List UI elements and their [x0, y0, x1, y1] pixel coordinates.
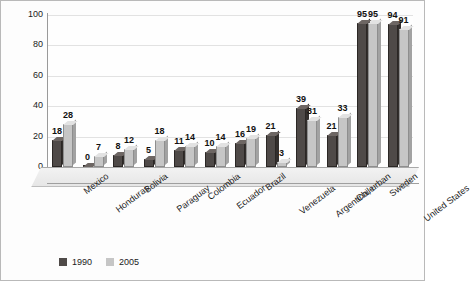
bar-face: [174, 150, 184, 167]
bar: [52, 140, 62, 167]
bar-face: [368, 23, 378, 167]
bar-group: 9595: [352, 15, 383, 167]
legend-label: 2005: [119, 257, 139, 267]
bar-value-label: 91: [393, 15, 415, 25]
bar: [357, 23, 367, 167]
x-tick-label: Mexico: [82, 171, 111, 196]
bar-value-label: 3: [271, 148, 293, 158]
bar-face: [296, 108, 306, 167]
y-tick-label: 40: [3, 100, 43, 110]
x-axis-labels: MexicoHondurasBoliviaParaguayColombiaEcu…: [47, 169, 413, 255]
bar-value-label: 28: [57, 110, 79, 120]
legend-swatch-icon: [106, 258, 114, 266]
x-tick-label: Ecuador: [235, 183, 268, 211]
bar-group: 3931: [291, 15, 322, 167]
bar: [155, 140, 165, 167]
x-tick-label: Sweden: [388, 171, 420, 199]
bar: [124, 149, 134, 167]
y-tick-label: 100: [3, 9, 43, 19]
bar-face: [94, 156, 104, 167]
bar-face: [235, 143, 245, 167]
plot-area: 1828078125181114101416192133931213395959…: [47, 15, 413, 167]
bar-face: [327, 135, 337, 167]
legend-item[interactable]: 2005: [106, 257, 139, 267]
y-tick-label: 80: [3, 39, 43, 49]
y-tick-label: 0: [3, 161, 43, 171]
bar-group: 2133: [322, 15, 353, 167]
x-tick-label: Brazil: [264, 171, 288, 193]
bar-face: [124, 149, 134, 167]
bar-series-group: 1828078125181114101416192133931213395959…: [47, 15, 413, 167]
bar-face: [113, 155, 123, 167]
bar-value-label: 21: [260, 121, 282, 131]
bar-group: 518: [139, 15, 170, 167]
y-tick-label: 60: [3, 70, 43, 80]
legend-label: 1990: [72, 257, 92, 267]
bar-face: [388, 24, 398, 167]
bar-face: [399, 29, 409, 167]
bar: [399, 29, 409, 167]
y-tick-label: 20: [3, 131, 43, 141]
legend-item[interactable]: 1990: [59, 257, 92, 267]
legend: 19902005: [59, 257, 139, 267]
bar-group: 07: [78, 15, 109, 167]
bar: [338, 117, 348, 167]
bar-group: 812: [108, 15, 139, 167]
bar-group: 1828: [47, 15, 78, 167]
bar: [246, 138, 256, 167]
bar-face: [63, 124, 73, 167]
bar-face: [307, 120, 317, 167]
bar: [388, 24, 398, 167]
bar: [94, 156, 104, 167]
y-axis: 100806040200: [1, 15, 43, 167]
bar: [235, 143, 245, 167]
bar-group: 1014: [200, 15, 231, 167]
bar-side: [378, 18, 381, 165]
bar-face: [357, 23, 367, 167]
x-tick-label: Paraguay: [175, 183, 212, 214]
bar-value-label: 33: [332, 103, 354, 113]
bar-face: [144, 159, 154, 167]
bar-value-label: 18: [149, 126, 171, 136]
bar: [144, 159, 154, 167]
x-tick-label: Venezuela: [298, 183, 338, 216]
bar: [216, 146, 226, 167]
bar: [368, 23, 378, 167]
bar-group: 1619: [230, 15, 261, 167]
x-tick-label: Bolivia: [142, 171, 169, 195]
bar-face: [155, 140, 165, 167]
bar-face: [246, 138, 256, 167]
bar: [205, 152, 215, 167]
bar-side: [409, 24, 412, 165]
bar-face: [205, 152, 215, 167]
bar-value-label: 12: [118, 135, 140, 145]
bar-side: [348, 112, 351, 165]
bar: [113, 155, 123, 167]
bar-face: [185, 146, 195, 167]
bar-group: 9491: [383, 15, 414, 167]
bar: [185, 146, 195, 167]
bar-face: [216, 146, 226, 167]
x-tick-label: United States: [422, 183, 471, 224]
bar: [307, 120, 317, 167]
bar-group: 213: [261, 15, 292, 167]
bar-group: 1114: [169, 15, 200, 167]
bar-face: [338, 117, 348, 167]
bar: [174, 150, 184, 167]
x-tick-label: Colombia: [206, 171, 242, 202]
bar: [63, 124, 73, 167]
legend-swatch-icon: [59, 258, 67, 266]
bar-value-label: 31: [301, 106, 323, 116]
bar: [327, 135, 337, 167]
bar: [296, 108, 306, 167]
bar-value-label: 39: [290, 94, 312, 104]
bar-face: [52, 140, 62, 167]
